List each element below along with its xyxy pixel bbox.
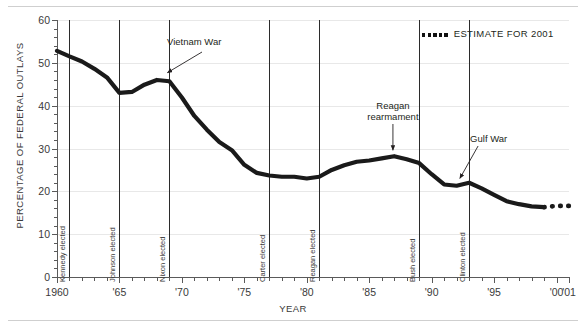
x-tick-label: '01 (562, 286, 576, 298)
x-tick-minor (332, 277, 333, 281)
annotation-label: Vietnam War (167, 36, 221, 47)
estimate-legend-swatch (422, 33, 448, 37)
annotation-label: Gulf War (470, 133, 507, 144)
x-tick-major (432, 277, 433, 283)
x-tick-minor (444, 277, 445, 281)
top-divider (8, 6, 578, 7)
x-tick-label: '85 (362, 286, 376, 298)
x-tick-minor (169, 277, 170, 281)
x-tick-label: '75 (237, 286, 251, 298)
x-tick-major (244, 277, 245, 283)
y-tick-label: 40 (38, 100, 50, 112)
x-tick-minor (194, 277, 195, 281)
x-tick-minor (482, 277, 483, 281)
x-tick-major (182, 277, 183, 283)
x-tick-minor (232, 277, 233, 281)
annotation-arrow (167, 52, 202, 73)
x-tick-minor (94, 277, 95, 281)
annotation-label: Reagan (353, 100, 433, 111)
series-line (544, 206, 569, 207)
annotation-arrow (460, 146, 478, 178)
x-tick-minor (344, 277, 345, 281)
x-tick-minor (132, 277, 133, 281)
y-tick-label: 50 (38, 57, 50, 69)
y-tick-label: 10 (38, 228, 50, 240)
x-tick-label: '90 (425, 286, 439, 298)
x-tick-minor (207, 277, 208, 281)
x-tick-minor (144, 277, 145, 281)
x-tick-label: 1960 (45, 286, 68, 298)
x-tick-major (119, 277, 120, 283)
chart-figure: PERCENTAGE OF FEDERAL OUTLAYS YEAR 01020… (0, 0, 586, 327)
x-axis-title: YEAR (0, 303, 586, 314)
x-tick-minor (294, 277, 295, 281)
y-tick-label: 20 (38, 185, 50, 197)
x-tick-major (557, 277, 558, 283)
x-tick-minor (532, 277, 533, 281)
x-tick-minor (69, 277, 70, 281)
x-tick-major (494, 277, 495, 283)
x-tick-major (369, 277, 370, 283)
x-tick-minor (319, 277, 320, 281)
bottom-divider (8, 320, 578, 321)
x-tick-minor (544, 277, 545, 281)
x-tick-minor (219, 277, 220, 281)
y-tick-label: 0 (44, 271, 50, 283)
annotation-label: rearmament (353, 111, 433, 122)
y-tick-label: 30 (38, 143, 50, 155)
estimate-legend-label: ESTIMATE FOR 2001 (454, 28, 554, 39)
x-tick-minor (82, 277, 83, 281)
x-tick-label: '70 (175, 286, 189, 298)
x-tick-minor (394, 277, 395, 281)
x-tick-minor (507, 277, 508, 281)
y-tick-label: 60 (38, 14, 50, 26)
x-tick-label: '80 (300, 286, 314, 298)
plot-area: 0102030405060 1960'65'70'75'80'85'90'95'… (57, 20, 569, 277)
x-tick-label: '65 (113, 286, 127, 298)
y-axis-title: PERCENTAGE OF FEDERAL OUTLAYS (14, 21, 25, 251)
x-tick-major (569, 277, 570, 283)
series-line (57, 51, 544, 207)
x-tick-minor (419, 277, 420, 281)
x-tick-minor (357, 277, 358, 281)
series-lines (57, 20, 569, 277)
x-tick-minor (469, 277, 470, 281)
x-tick-minor (382, 277, 383, 281)
x-tick-minor (519, 277, 520, 281)
x-tick-minor (282, 277, 283, 281)
x-tick-minor (269, 277, 270, 281)
x-tick-label: '95 (487, 286, 501, 298)
